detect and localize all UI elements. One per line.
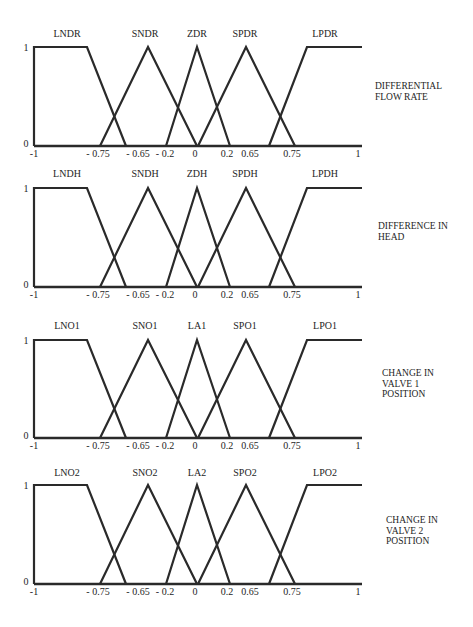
x-tick-label: 0 xyxy=(193,289,198,300)
series-label-lndh: LNDH xyxy=(53,168,81,179)
y-tick-label-1: 1 xyxy=(24,42,29,53)
x-tick-label: - 0.65 xyxy=(126,148,149,159)
variable-name-line: POSITION xyxy=(386,536,429,546)
variable-name-line: HEAD xyxy=(378,232,405,242)
series-label-lpdh: LPDH xyxy=(312,168,338,179)
x-tick-label: 0.2 xyxy=(221,586,234,597)
series-label-lndr: LNDR xyxy=(53,28,81,39)
x-tick-label: 0 xyxy=(193,148,198,159)
x-tick-label: 0 xyxy=(193,586,198,597)
membership-function-lno2 xyxy=(34,485,126,584)
x-tick-label: - 0.2 xyxy=(156,440,174,451)
x-tick-label: - 0.75 xyxy=(86,289,109,300)
x-tick-label: 0.65 xyxy=(241,586,259,597)
series-label-zdr: ZDR xyxy=(187,28,207,39)
variable-name-line: CHANGE IN xyxy=(382,368,434,378)
x-tick-label: -1 xyxy=(30,289,38,300)
x-tick-label: 0.75 xyxy=(283,289,301,300)
variable-name-line: VALVE 1 xyxy=(382,379,419,389)
membership-function-la2 xyxy=(166,485,230,584)
x-tick-label: - 0.75 xyxy=(86,440,109,451)
variable-name-line: VALVE 2 xyxy=(386,526,423,536)
variable-name-line: DIFFERENTIAL xyxy=(375,81,442,91)
membership-panel-2: LNDHSNDHZDHSPDHLPDH10-1- 0.75- 0.65- 0.2… xyxy=(24,168,449,300)
series-label-spdh: SPDH xyxy=(232,168,258,179)
x-tick-label: - 0.75 xyxy=(86,586,109,597)
x-tick-label: 0.65 xyxy=(241,148,259,159)
y-tick-label-0: 0 xyxy=(24,576,29,587)
x-tick-label: -1 xyxy=(30,586,38,597)
membership-function-lpdh xyxy=(269,188,362,287)
variable-name-line: CHANGE IN xyxy=(386,515,438,525)
x-tick-label: - 0.2 xyxy=(156,289,174,300)
series-label-lpo1: LPO1 xyxy=(313,320,337,331)
series-label-spo1: SPO1 xyxy=(233,320,256,331)
fuzzy-membership-figure: LNDRSNDRZDRSPDRLPDR10-1- 0.75- 0.65- 0.2… xyxy=(0,0,473,627)
series-label-sndr: SNDR xyxy=(132,28,159,39)
x-tick-label: 0 xyxy=(193,440,198,451)
x-tick-label: -1 xyxy=(30,148,38,159)
x-tick-label: 0.2 xyxy=(221,289,234,300)
membership-function-lpo2 xyxy=(269,485,362,584)
membership-panel-4: LNO2SNO2LA2SPO2LPO210-1- 0.75- 0.65- 0.2… xyxy=(24,467,439,597)
variable-name-line: DIFFERENCE IN xyxy=(378,221,448,231)
membership-function-lndr xyxy=(34,47,126,146)
x-tick-label: 1 xyxy=(356,148,361,159)
x-tick-label: 1 xyxy=(356,440,361,451)
x-tick-label: 1 xyxy=(356,289,361,300)
y-tick-label-1: 1 xyxy=(24,480,29,491)
x-tick-label: 0.2 xyxy=(221,440,234,451)
series-label-sno1: SNO1 xyxy=(132,320,157,331)
membership-panel-1: LNDRSNDRZDRSPDRLPDR10-1- 0.75- 0.65- 0.2… xyxy=(24,28,443,159)
x-tick-label: 0.75 xyxy=(283,586,301,597)
membership-function-lndh xyxy=(34,188,126,287)
series-label-lno2: LNO2 xyxy=(54,467,80,478)
membership-function-lpo1 xyxy=(269,340,362,438)
x-tick-label: 0.2 xyxy=(221,148,234,159)
membership-function-zdh xyxy=(166,188,230,287)
x-tick-label: 0.65 xyxy=(241,289,259,300)
x-tick-label: 0.65 xyxy=(241,440,259,451)
y-tick-label-0: 0 xyxy=(24,430,29,441)
series-label-lno1: LNO1 xyxy=(54,320,80,331)
variable-name-line: FLOW RATE xyxy=(375,92,428,102)
y-tick-label-1: 1 xyxy=(24,335,29,346)
series-label-la2: LA2 xyxy=(188,467,206,478)
x-tick-label: - 0.65 xyxy=(126,440,149,451)
x-tick-label: 1 xyxy=(356,586,361,597)
x-tick-label: 0.75 xyxy=(283,148,301,159)
membership-function-la1 xyxy=(166,340,230,438)
x-tick-label: - 0.75 xyxy=(86,148,109,159)
series-label-zdh: ZDH xyxy=(187,168,208,179)
series-label-la1: LA1 xyxy=(188,320,206,331)
series-label-sno2: SNO2 xyxy=(132,467,157,478)
series-label-lpdr: LPDR xyxy=(312,28,338,39)
x-tick-label: - 0.65 xyxy=(126,289,149,300)
series-label-spo2: SPO2 xyxy=(233,467,256,478)
series-label-spdr: SPDR xyxy=(232,28,257,39)
membership-panel-3: LNO1SNO1LA1SPO1LPO110-1- 0.75- 0.65- 0.2… xyxy=(24,320,435,451)
x-tick-label: - 0.2 xyxy=(156,586,174,597)
x-tick-label: -1 xyxy=(30,440,38,451)
x-tick-label: - 0.65 xyxy=(126,586,149,597)
membership-function-lno1 xyxy=(34,340,126,438)
y-tick-label-1: 1 xyxy=(24,183,29,194)
membership-function-lpdr xyxy=(269,47,362,146)
y-tick-label-0: 0 xyxy=(24,279,29,290)
variable-name-line: POSITION xyxy=(382,389,425,399)
x-tick-label: 0.75 xyxy=(283,440,301,451)
membership-function-zdr xyxy=(166,47,230,146)
series-label-lpo2: LPO2 xyxy=(313,467,337,478)
x-tick-label: - 0.2 xyxy=(156,148,174,159)
series-label-sndh: SNDH xyxy=(131,168,158,179)
y-tick-label-0: 0 xyxy=(24,138,29,149)
